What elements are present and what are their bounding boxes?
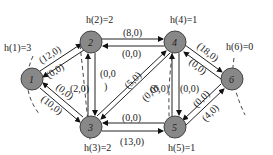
edge-label-2-3-cont: ) bbox=[104, 81, 107, 93]
node-4: 4 bbox=[164, 31, 186, 53]
node-5: 5 bbox=[164, 116, 186, 138]
height-label-3: h(3)=2 bbox=[84, 142, 111, 154]
node-4-label: 4 bbox=[172, 37, 177, 48]
flow-network-diagram: (12,0) (0,0) (10,0) (0,0) (8,0) (0,0) (2… bbox=[0, 0, 273, 155]
edge-label-5-6: (4,0) bbox=[199, 102, 221, 124]
edge-label-5-3: (0,0) bbox=[122, 112, 141, 124]
edge-label-2-4: (8,0) bbox=[123, 27, 142, 39]
edge-label-3-5: (13,0) bbox=[120, 136, 144, 148]
height-label-2: h(2)=2 bbox=[86, 14, 113, 26]
height-label-1: h(1)=3 bbox=[4, 42, 31, 54]
edge-label-2-3: (0,0 bbox=[100, 68, 116, 80]
edge-label-5-4: (6,0) bbox=[150, 83, 169, 95]
node-3-label: 3 bbox=[87, 122, 93, 133]
edge-label-4-2: (0,0) bbox=[122, 48, 141, 60]
height-label-5: h(5)=1 bbox=[168, 142, 195, 154]
node-1: 1 bbox=[21, 68, 43, 90]
height-label-4: h(4)=1 bbox=[170, 14, 197, 26]
node-1-label: 1 bbox=[29, 74, 34, 85]
node-6-label: 6 bbox=[229, 74, 234, 85]
diagram-svg: (12,0) (0,0) (10,0) (0,0) (8,0) (0,0) (2… bbox=[0, 0, 273, 155]
node-5-label: 5 bbox=[172, 122, 177, 133]
height-label-6: h(6)=0 bbox=[226, 41, 253, 53]
edge-label-3-2: (2,0) bbox=[70, 83, 89, 95]
node-2-label: 2 bbox=[88, 37, 93, 48]
edge-label-6-4: (0,0) bbox=[186, 56, 208, 77]
node-3: 3 bbox=[80, 116, 102, 138]
node-6: 6 bbox=[221, 68, 243, 90]
edge-labels: (12,0) (0,0) (10,0) (0,0) (8,0) (0,0) (2… bbox=[37, 27, 222, 148]
edge-label-4-5: (0,0) bbox=[180, 83, 199, 95]
edge-label-1-3: (10,0) bbox=[38, 93, 64, 117]
node-2: 2 bbox=[80, 31, 102, 53]
